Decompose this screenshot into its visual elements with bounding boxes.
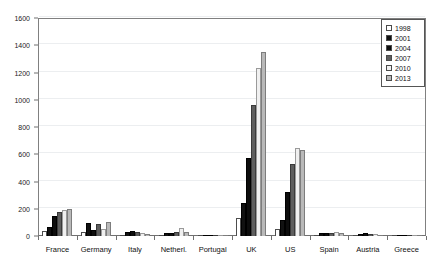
x-tick-label: UK [246, 245, 256, 254]
legend-label: 2001 [395, 35, 411, 42]
legend-label: 2013 [395, 75, 411, 82]
legend-swatch-icon [386, 65, 392, 71]
bar-group-us [271, 18, 310, 236]
x-tick-mark [116, 236, 117, 240]
y-tick-label: 800 [18, 124, 30, 131]
legend-swatch-icon [386, 35, 392, 41]
legend-label: 2010 [395, 65, 411, 72]
x-tick-label: Germany [81, 245, 112, 254]
y-tick-label: 600 [18, 151, 30, 158]
bar [261, 52, 266, 236]
x-tick-mark [38, 236, 39, 240]
x-tick-label: Netherl. [161, 245, 187, 254]
y-axis: 02004006008001000120014001600 [0, 0, 38, 236]
x-tick-label: Austria [356, 245, 379, 254]
x-tick-mark [232, 236, 233, 240]
legend-label: 2004 [395, 45, 411, 52]
x-tick-mark [154, 236, 155, 240]
y-tick-label: 1400 [14, 42, 30, 49]
x-tick-mark [77, 236, 78, 240]
x-tick-label: Italy [128, 245, 142, 254]
x-tick-label: Greece [394, 245, 419, 254]
legend-entry-2010: 2010 [386, 63, 421, 73]
y-tick-label: 400 [18, 178, 30, 185]
bar-group-germany [77, 18, 116, 236]
x-tick-label: France [46, 245, 69, 254]
bar-group-spain [310, 18, 349, 236]
bar [106, 222, 111, 236]
x-tick-label: Portugal [199, 245, 227, 254]
x-axis: FranceGermanyItalyNetherl.PortugalUKUSSp… [38, 236, 426, 276]
legend-label: 2007 [395, 55, 411, 62]
y-tick-label: 1000 [14, 96, 30, 103]
x-tick-mark [271, 236, 272, 240]
legend-label: 1998 [395, 25, 411, 32]
legend-swatch-icon [386, 25, 392, 31]
legend-swatch-icon [386, 45, 392, 51]
x-tick-mark [426, 236, 427, 240]
bar [67, 209, 72, 236]
bar-group-france [38, 18, 77, 236]
bar [300, 150, 305, 236]
bar-chart: 02004006008001000120014001600 FranceGerm… [0, 0, 445, 276]
x-tick-mark [348, 236, 349, 240]
x-tick-mark [193, 236, 194, 240]
x-tick-label: Spain [319, 245, 338, 254]
gridline [39, 16, 425, 17]
legend-swatch-icon [386, 75, 392, 81]
bar-group-uk [232, 18, 271, 236]
y-tick-label: 0 [26, 233, 30, 240]
x-tick-mark [310, 236, 311, 240]
y-tick-label: 1200 [14, 69, 30, 76]
legend-entry-2001: 2001 [386, 33, 421, 43]
bar-group-netherl [154, 18, 193, 236]
chart-legend: 199820012004200720102013 [381, 19, 425, 87]
y-tick-label: 1600 [14, 15, 30, 22]
y-tick-label: 200 [18, 205, 30, 212]
x-tick-label: US [285, 245, 295, 254]
x-tick-mark [387, 236, 388, 240]
legend-swatch-icon [386, 55, 392, 61]
bar-group-italy [116, 18, 155, 236]
bar-group-portugal [193, 18, 232, 236]
legend-entry-2013: 2013 [386, 73, 421, 83]
legend-entry-2004: 2004 [386, 43, 421, 53]
bars-layer [38, 18, 426, 236]
legend-entry-2007: 2007 [386, 53, 421, 63]
legend-entry-1998: 1998 [386, 23, 421, 33]
